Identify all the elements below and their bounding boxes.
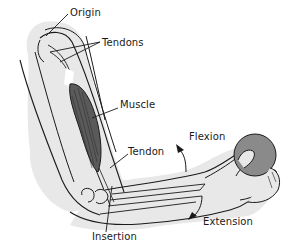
label-extension: Extension — [203, 217, 253, 227]
arm-anatomy-diagram: Origin Tendons Muscle Tendon Flexion Ins… — [0, 0, 297, 247]
label-tendons: Tendons — [102, 38, 144, 48]
flexion-arrow — [180, 150, 186, 172]
label-tendon: Tendon — [128, 147, 164, 157]
arm-illustration — [0, 0, 297, 247]
label-origin: Origin — [70, 8, 101, 18]
label-insertion: Insertion — [92, 232, 137, 242]
flexion-arrowhead-icon — [176, 144, 184, 153]
label-muscle: Muscle — [120, 100, 155, 110]
label-flexion: Flexion — [189, 132, 225, 142]
